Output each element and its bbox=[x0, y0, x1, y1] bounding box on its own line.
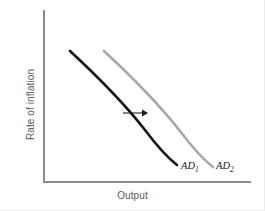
curve-label-ad1-subscript: 1 bbox=[195, 165, 199, 174]
curve-label-ad2-base: AD bbox=[216, 160, 230, 171]
chart-canvas bbox=[0, 0, 265, 211]
aggregate-demand-shift-figure: Rate of inflation Output AD1 AD2 bbox=[0, 0, 265, 211]
x-axis-title: Output bbox=[0, 190, 265, 201]
curve-label-ad2-subscript: 2 bbox=[230, 165, 234, 174]
shift-arrow-head bbox=[142, 109, 148, 116]
curve-label-ad1-base: AD bbox=[181, 160, 195, 171]
y-axis-title: Rate of inflation bbox=[25, 30, 36, 180]
curve-label-ad1: AD1 bbox=[181, 160, 199, 174]
rightward-shift-arrow bbox=[123, 109, 148, 116]
curve-ad2 bbox=[104, 51, 213, 167]
curve-label-ad2: AD2 bbox=[216, 160, 234, 174]
